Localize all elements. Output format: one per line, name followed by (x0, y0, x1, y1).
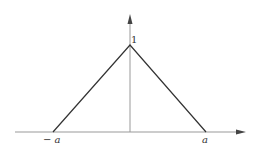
x-axis-arrow-icon (236, 130, 246, 135)
peak-label: 1 (131, 34, 137, 45)
y-axis (128, 14, 133, 132)
pos-a-label: a (202, 134, 208, 145)
triangle-chart: 1 − a a (0, 0, 256, 154)
neg-a-label: − a (43, 134, 61, 145)
y-axis-arrow-icon (128, 14, 133, 24)
